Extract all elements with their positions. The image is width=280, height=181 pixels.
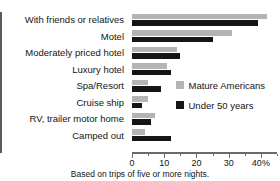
legend: Mature Americans Under 50 years — [176, 78, 265, 118]
bar — [132, 37, 213, 43]
bar-group — [132, 29, 277, 46]
y-axis-line — [0, 12, 2, 153]
category-label: Spa/Resort — [0, 78, 128, 95]
category-label: Camped out — [0, 128, 128, 145]
bar-group — [132, 45, 277, 62]
bar-group — [132, 12, 277, 29]
bar — [132, 53, 180, 59]
category-label: Moderately priced hotel — [0, 45, 128, 62]
x-tick-label: 10 — [159, 158, 169, 168]
category-axis-labels: With friends or relatives Motel Moderate… — [0, 12, 128, 144]
legend-swatch-icon — [176, 101, 184, 109]
bar — [132, 70, 171, 76]
category-label: With friends or relatives — [0, 12, 128, 29]
x-tick-minor — [180, 154, 181, 157]
bar — [132, 96, 148, 102]
x-tick-minor — [245, 154, 246, 157]
bar — [132, 119, 151, 125]
category-label: Motel — [0, 29, 128, 46]
bar — [132, 47, 177, 53]
x-tick-minor — [148, 154, 149, 157]
legend-item-mature-americans: Mature Americans — [176, 78, 265, 92]
x-tick-label: 20 — [191, 158, 201, 168]
x-tick-label: 30 — [224, 158, 234, 168]
legend-label: Mature Americans — [189, 80, 266, 91]
x-tick-minor — [213, 154, 214, 157]
bar — [132, 113, 155, 119]
bar-chart: With friends or relatives Motel Moderate… — [0, 0, 280, 181]
category-label: RV, trailer motor home — [0, 111, 128, 128]
bar — [132, 20, 258, 26]
bar — [132, 80, 148, 86]
legend-label: Under 50 years — [189, 100, 254, 111]
legend-item-under-50-years: Under 50 years — [176, 98, 265, 112]
bar — [132, 63, 167, 69]
bar — [132, 14, 267, 20]
bar — [132, 129, 145, 135]
chart-footnote: Based on trips of five or more nights. — [0, 169, 280, 179]
category-label: Luxury hotel — [0, 62, 128, 79]
bar-group — [132, 128, 277, 145]
x-tick-minor — [277, 154, 278, 157]
category-label: Cruise ship — [0, 95, 128, 112]
bar — [132, 103, 142, 109]
bar — [132, 86, 161, 92]
x-tick-label: 40% — [252, 158, 270, 168]
x-tick-label: 0 — [129, 158, 134, 168]
legend-swatch-icon — [176, 81, 184, 89]
bar — [132, 30, 232, 36]
bar — [132, 136, 171, 142]
bar-group — [132, 62, 277, 79]
